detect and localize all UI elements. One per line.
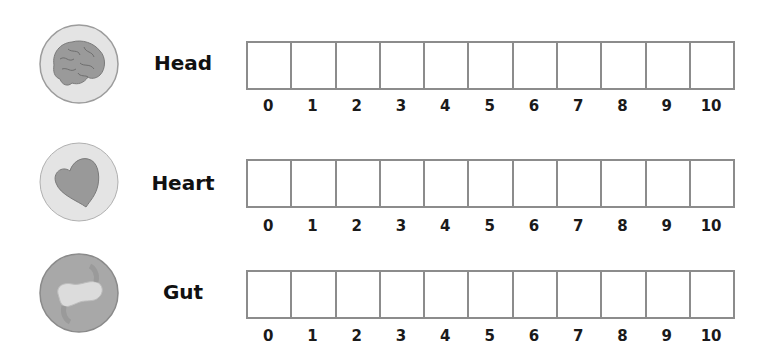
rating-box-6[interactable] (512, 159, 558, 208)
rating-box-7[interactable] (556, 270, 602, 319)
rating-box-4[interactable] (423, 41, 469, 90)
rating-box-7[interactable] (556, 159, 602, 208)
scale-number: 2 (335, 327, 379, 345)
row-label-gut: Gut (138, 280, 228, 304)
scale-number: 10 (689, 97, 733, 115)
scale-number: 2 (335, 217, 379, 235)
rating-box-2[interactable] (335, 159, 381, 208)
scale-number: 0 (246, 97, 290, 115)
scale-number: 5 (467, 217, 511, 235)
scale-number: 0 (246, 327, 290, 345)
scale-number: 7 (556, 97, 600, 115)
scale-number: 0 (246, 217, 290, 235)
row-head: Head 0 1 2 3 4 5 6 7 8 9 10 (0, 23, 763, 143)
scale-numbers-head: 0 1 2 3 4 5 6 7 8 9 10 (246, 97, 733, 115)
rating-scale-gut[interactable] (246, 270, 735, 319)
scale-number: 4 (423, 97, 467, 115)
rating-box-1[interactable] (290, 270, 336, 319)
rating-box-6[interactable] (512, 270, 558, 319)
scale-numbers-gut: 0 1 2 3 4 5 6 7 8 9 10 (246, 327, 733, 345)
rating-box-1[interactable] (290, 41, 336, 90)
rating-box-4[interactable] (423, 270, 469, 319)
scale-number: 3 (379, 217, 423, 235)
rating-box-10[interactable] (689, 41, 735, 90)
rating-box-5[interactable] (467, 270, 513, 319)
rating-box-8[interactable] (600, 41, 646, 90)
scale-number: 8 (600, 327, 644, 345)
rating-box-8[interactable] (600, 270, 646, 319)
scale-number: 5 (467, 97, 511, 115)
scale-number: 3 (379, 327, 423, 345)
scale-number: 10 (689, 327, 733, 345)
rating-scale-head[interactable] (246, 41, 735, 90)
brain-icon (38, 23, 120, 105)
rating-box-2[interactable] (335, 41, 381, 90)
scale-number: 9 (645, 217, 689, 235)
rating-box-5[interactable] (467, 159, 513, 208)
scale-number: 9 (645, 97, 689, 115)
rating-box-0[interactable] (246, 270, 292, 319)
scale-number: 4 (423, 327, 467, 345)
rating-box-6[interactable] (512, 41, 558, 90)
rating-box-10[interactable] (689, 159, 735, 208)
heart-icon (38, 141, 120, 223)
rating-box-10[interactable] (689, 270, 735, 319)
scale-number: 6 (512, 327, 556, 345)
scale-number: 7 (556, 217, 600, 235)
rating-box-9[interactable] (645, 41, 691, 90)
scale-number: 1 (290, 97, 334, 115)
scale-number: 6 (512, 97, 556, 115)
row-gut: Gut 0 1 2 3 4 5 6 7 8 9 10 (0, 252, 763, 363)
row-label-head: Head (138, 51, 228, 75)
rating-box-0[interactable] (246, 159, 292, 208)
scale-number: 8 (600, 97, 644, 115)
scale-number: 5 (467, 327, 511, 345)
scale-number: 9 (645, 327, 689, 345)
scale-number: 1 (290, 327, 334, 345)
scale-number: 2 (335, 97, 379, 115)
rating-box-4[interactable] (423, 159, 469, 208)
scale-number: 6 (512, 217, 556, 235)
rating-box-3[interactable] (379, 159, 425, 208)
rating-box-8[interactable] (600, 159, 646, 208)
rating-box-9[interactable] (645, 270, 691, 319)
rating-box-5[interactable] (467, 41, 513, 90)
row-heart: Heart 0 1 2 3 4 5 6 7 8 9 10 (0, 141, 763, 261)
rating-scale-heart[interactable] (246, 159, 735, 208)
rating-box-3[interactable] (379, 41, 425, 90)
rating-box-0[interactable] (246, 41, 292, 90)
scale-number: 7 (556, 327, 600, 345)
scale-numbers-heart: 0 1 2 3 4 5 6 7 8 9 10 (246, 217, 733, 235)
rating-box-1[interactable] (290, 159, 336, 208)
rating-box-9[interactable] (645, 159, 691, 208)
scale-number: 4 (423, 217, 467, 235)
rating-box-7[interactable] (556, 41, 602, 90)
gut-icon (38, 252, 120, 334)
scale-number: 10 (689, 217, 733, 235)
scale-number: 3 (379, 97, 423, 115)
scale-number: 1 (290, 217, 334, 235)
scale-number: 8 (600, 217, 644, 235)
row-label-heart: Heart (138, 171, 228, 195)
rating-box-3[interactable] (379, 270, 425, 319)
rating-box-2[interactable] (335, 270, 381, 319)
